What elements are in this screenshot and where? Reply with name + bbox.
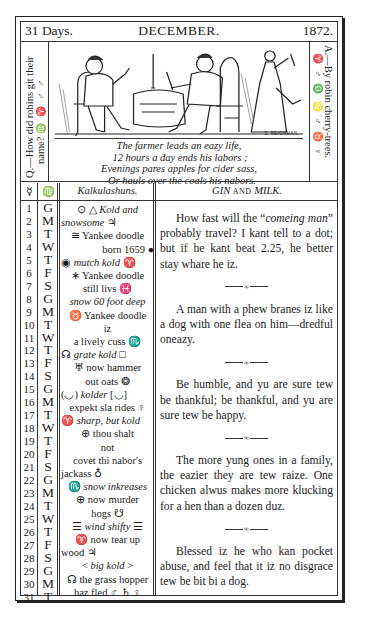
verse-line: Evenings pares apples for cider sass, [51,163,307,175]
italic-text: kolder [81,389,108,400]
kalkulashun-line: snow 60 foot deep [61,295,154,308]
day-number: 13 [21,357,37,370]
text: ♈ [120,257,136,268]
year: 1872. [303,23,333,39]
paragraph: The more yung ones in a family, the eazi… [160,453,333,514]
kalkulashun-line: (◡) kolder [◡] [61,388,154,401]
day-numbers-column: 1234567891011121314151617181920212223242… [21,202,37,604]
day-number: 10 [21,319,37,332]
paragraph: A man with a phew branes iz like a dog w… [160,302,333,348]
text: ♈ now tear up [75,534,140,545]
day-number: 1 [21,202,37,215]
kalkulashun-line: a lively cuss ♏ [61,335,154,348]
italic-text: mutch kold [74,257,120,268]
header-word: GIN [212,185,230,196]
day-number: 12 [21,344,37,357]
text: ♅ now hammer [74,362,142,373]
question-sidebar: Q.—How did robins git their name? ♍ ♈ ♂ … [21,42,49,181]
text: covet thi nabor's [73,455,142,466]
question-line-2-text: name? [35,137,46,164]
question-line-1: Q.—How did robins git their [24,56,35,178]
text: still livs ♓ [83,283,132,294]
text: ◉ [61,257,74,268]
text: ♃ [104,217,117,228]
text: ♏ [68,481,84,492]
text: ♈ [61,415,77,426]
day-number: 21 [21,461,37,474]
text: ☰ [72,521,85,532]
day-number: 6 [21,267,37,280]
kalkulashun-line: ◉ mutch kold ♈ [61,256,154,269]
kalkulashuns-column: ⊙ △ Kold andsnowsome ♃≅ Yankee doodlebor… [61,203,154,599]
text: a lively cuss ♏ [74,336,142,347]
text: comeing man [265,212,327,225]
header-word: AND [233,187,252,196]
month-title: DECEMBER. [21,23,337,39]
ornament-divider: ∞ [160,423,333,453]
kalkulashun-line: not [61,441,154,454]
day-number: 3 [21,228,37,241]
virgo-symbol: ♍ [38,185,58,198]
gin-and-milk-essay: How fast will the “comeing man” probably… [160,207,333,589]
kalkulashun-line: ⊕ thou shalt [61,427,154,440]
kalkulashun-line: jackass ♁ [61,467,154,480]
day-number: 5 [21,254,37,267]
text: haz fled ♂ ♄ ♀ [74,587,141,598]
day-number: 24 [21,500,37,513]
illustration-band: Q.—How did robins git their name? ♍ ♈ ♂ … [21,42,337,182]
text: ≅ Yankee doodle [71,230,144,241]
text: born 1659 ● [102,244,154,255]
text: ☊ [61,349,74,360]
day-number: 27 [21,539,37,552]
text: hogs ☋ [91,508,123,519]
verse-line: 12 hours a day ends his labors ; [51,152,307,164]
kalkulashuns-header: Kalkulashuns. [61,185,154,196]
text: How fast will the “ [176,212,265,225]
kalkulashun-line: snowsome ♃ [61,216,154,229]
kalkulashun-line: born 1659 ● [61,243,154,256]
text: not [101,442,114,453]
kalkulashun-line: wood ♃ [61,546,154,559]
text: out oats ❂ [85,376,130,387]
kalkulashun-line: iz [61,322,154,335]
answer-sidebar: A.—By robin cherry-trees. ♈ ♂ ♎ ♌ ♂ ♉ ♀ [309,42,337,181]
gin-and-milk-header: GIN AND MILK. [157,185,337,196]
zodiac-symbols: ♈ ♂ ♎ ♌ ♂ ♉ ♀ [312,45,323,158]
kalkulashun-line: ☊ the grass hopper [61,573,154,586]
day-number: 14 [21,370,37,383]
text: [◡] [107,389,127,400]
text: □ [117,349,126,360]
day-number: 20 [21,448,37,461]
day-number: 30 [21,578,37,591]
kalkulashun-line: covet thi nabor's [61,454,154,467]
kalkulashun-line: ♈ now tear up [61,533,154,546]
engraving-image [55,44,303,138]
day-number: 4 [21,241,37,254]
kalkulashun-line: ♉ Yankee doodle [61,309,154,322]
kalkulashun-line: ☰ wind shifty ☰ [61,520,154,533]
verse-line: The farmer leads an eazy life, [51,140,307,152]
text: iz [104,323,112,334]
question-text: Q.—How did robins git their name? ♍ ♈ ♂ … [24,56,25,178]
header-word: MILK. [254,185,282,196]
paragraph: Be humble, and yu are sure tew be thankf… [160,377,333,423]
page-inner-frame: 31 Days. DECEMBER. 1872. Q.—How did robi… [20,21,338,596]
farmer-illustration: S. REIGHMAN. [55,44,303,139]
kalkulashun-line: ⊙ △ Kold and [61,203,154,216]
kalkulashun-line: expekt sla rides ♀ [61,401,154,414]
text: ⊕ thou shalt [81,428,134,439]
table-header: ☿ ♍ Kalkulashuns. GIN AND MILK. [21,183,337,201]
weekday-letter: T [38,591,58,604]
text: ∗ Yankee doodle [71,270,144,281]
italic-text: big kold [90,560,124,571]
day-number: 17 [21,409,37,422]
kalkulashun-line: haz fled ♂ ♄ ♀ [61,586,154,599]
text: jackass ♁ [61,468,102,479]
text: ☰ [130,521,143,532]
day-number: 25 [21,513,37,526]
day-number: 16 [21,396,37,409]
kalkulashun-line: ☊ grate kold □ [61,348,154,361]
text: ☊ the grass hopper [67,574,148,585]
kalkulashun-line: ∗ Yankee doodle [61,269,154,282]
day-number: 26 [21,526,37,539]
